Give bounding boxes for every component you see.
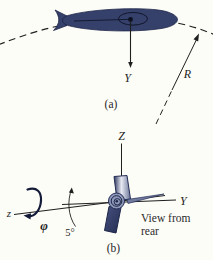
view-note-line1: View from bbox=[141, 212, 191, 224]
roll-axis-label: z bbox=[6, 207, 12, 219]
radius-arrow bbox=[156, 34, 199, 125]
ventral-fin-bottom bbox=[105, 207, 122, 234]
radius-line-dashed bbox=[156, 90, 172, 124]
right-pectoral-fin bbox=[127, 194, 164, 204]
radius-arrowhead-icon bbox=[194, 34, 200, 42]
view-note-line2: rear bbox=[141, 225, 159, 237]
bank-angle-label: 5° bbox=[65, 227, 74, 238]
y-axis-arrowhead-icon bbox=[128, 62, 133, 68]
panel-b: Z Y z φ 5° bbox=[6, 129, 191, 255]
spiral-center-dot bbox=[116, 200, 119, 203]
roll-rotation-arrowhead-icon bbox=[24, 213, 32, 219]
y-horizontal-axis-label: Y bbox=[180, 194, 188, 208]
radius-label: R bbox=[183, 67, 192, 81]
radius-line-solid bbox=[172, 38, 198, 91]
bank-angle-arrowhead-icon bbox=[69, 188, 74, 194]
caption-a: (a) bbox=[105, 98, 118, 111]
diagram-svg: R Y (a) Z Y z φ bbox=[0, 0, 213, 260]
y-axis-label-a: Y bbox=[124, 71, 132, 85]
caption-b: (b) bbox=[107, 242, 121, 255]
panel-a: R Y (a) bbox=[0, 9, 213, 124]
fish-top-view bbox=[54, 9, 178, 31]
figure-canvas: R Y (a) Z Y z φ bbox=[0, 0, 213, 260]
body-spiral bbox=[109, 193, 125, 209]
z-vertical-axis-label: Z bbox=[118, 129, 125, 143]
roll-rotation-arrow bbox=[24, 189, 42, 220]
roll-angle-symbol: φ bbox=[40, 218, 48, 233]
